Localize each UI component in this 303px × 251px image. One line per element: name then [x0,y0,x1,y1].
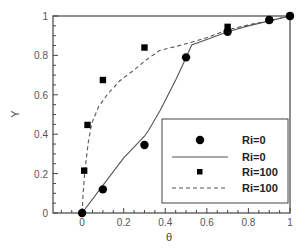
x-axis: 00.20.40.60.81 [61,208,293,228]
legend-marker-circle [196,136,204,144]
data-point-ri0 [78,209,86,217]
data-point-ri100 [224,24,230,30]
y-axis-label: Y [9,110,21,118]
data-point-ri0 [140,141,148,149]
x-tick-label: 0.4 [158,217,172,228]
y-tick-label: 0.6 [34,90,48,101]
data-point-ri100 [287,13,293,19]
x-tick-label: 0.2 [117,217,131,228]
y-tick-label: 0 [42,208,48,219]
data-point-ri100 [266,17,272,23]
legend-label: Ri=100 [242,182,278,194]
legend-label: Ri=0 [242,151,266,163]
data-point-ri0 [182,53,190,61]
x-axis-label: θ [166,231,172,243]
x-tick-label: 0.6 [200,217,214,228]
legend-label: Ri=100 [242,166,278,178]
legend-label: Ri=0 [242,134,266,146]
data-point-ri100 [84,122,90,128]
x-tick-label: 1 [287,217,293,228]
legend-marker-square [197,169,203,175]
chart: 00.20.40.60.81 00.20.40.60.81 θ Y Ri=0Ri… [0,0,303,251]
legend: Ri=0Ri=0Ri=100Ri=100 [162,119,288,203]
y-tick-label: 0.4 [34,129,48,140]
y-tick-label: 0.8 [34,50,48,61]
y-tick-label: 1 [42,11,48,22]
y-tick-label: 0.2 [34,169,48,180]
y-axis: 00.20.40.60.81 [34,11,58,219]
data-point-ri100 [100,77,106,83]
data-point-ri100 [81,167,87,173]
data-point-ri100 [141,44,147,50]
x-tick-label: 0.8 [241,217,255,228]
data-point-ri0 [99,185,107,193]
x-tick-label: 0 [79,217,85,228]
